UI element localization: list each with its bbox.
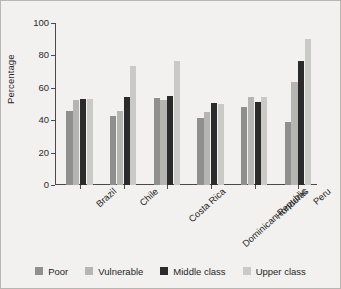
bar-middle-class [255,102,261,185]
x-tick-label: Honduras [274,187,310,221]
y-tick-label: 0 [44,180,49,190]
legend-label: Vulnerable [98,267,143,277]
legend-label: Middle class [173,267,225,277]
legend-swatch-icon [243,267,251,275]
bar-vulnerable [73,100,79,185]
bar-group [66,23,93,185]
bar-upper-class [261,97,267,185]
plot-area: 020406080100 [55,23,317,185]
x-tick-label: Peru [312,187,333,207]
legend-swatch-icon [35,267,43,275]
y-tick-label: 100 [33,18,49,28]
y-axis-title: Percentage [5,54,16,104]
y-tick-label: 80 [38,51,49,61]
bar-poor [154,98,160,185]
bar-upper-class [130,66,136,185]
bar-middle-class [298,61,304,185]
legend-item-upper-class[interactable]: Upper class [243,267,306,277]
x-tick-label: Chile [138,187,160,208]
legend-item-poor[interactable]: Poor [35,267,68,277]
legend-item-vulnerable[interactable]: Vulnerable [85,267,143,277]
y-tick-mark [51,185,55,186]
legend-label: Poor [48,267,68,277]
bar-upper-class [305,39,311,185]
y-tick-label: 20 [38,148,49,158]
bar-vulnerable [248,97,254,185]
bar-group [154,23,181,185]
y-tick-label: 60 [38,83,49,93]
bar-group [110,23,137,185]
x-tick-label: Costa Rica [188,187,228,224]
bar-upper-class [174,61,180,185]
bar-vulnerable [291,82,297,185]
legend-swatch-icon [85,267,93,275]
bar-poor [66,111,72,185]
bar-poor [110,116,116,185]
bar-middle-class [167,96,173,185]
legend-item-middle-class[interactable]: Middle class [160,267,225,277]
bar-upper-class [218,104,224,185]
bar-vulnerable [117,111,123,185]
bar-vulnerable [160,100,166,185]
chart-figure: Percentage 020406080100 BrazilChileCosta… [0,0,341,289]
legend-label: Upper class [256,267,306,277]
x-axis-labels: BrazilChileCosta RicaDominican RepublicH… [55,187,317,245]
x-tick-label: Brazil [95,187,118,209]
bars-layer [55,23,317,185]
y-tick-label: 40 [38,115,49,125]
bar-vulnerable [204,112,210,185]
legend-swatch-icon [160,267,168,275]
chart-legend: PoorVulnerableMiddle classUpper class [1,267,340,277]
bar-middle-class [124,97,130,185]
bar-group [197,23,224,185]
bar-middle-class [211,103,217,185]
bar-middle-class [80,99,86,186]
bar-poor [197,118,203,185]
bar-group [241,23,268,185]
bar-upper-class [87,99,93,185]
bar-poor [285,122,291,185]
bar-group [285,23,312,185]
bar-poor [241,107,247,185]
